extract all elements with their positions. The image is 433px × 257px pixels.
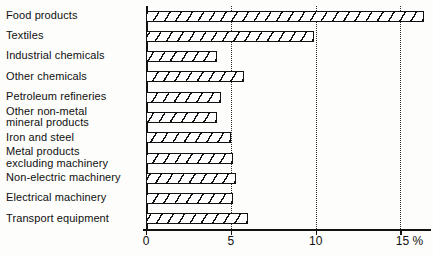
- bar: [146, 71, 244, 82]
- tick-label-15: 15 %: [396, 234, 423, 248]
- category-label: Other chemicals: [6, 71, 142, 83]
- category-label: Petroleum refineries: [6, 91, 142, 103]
- category-label: Non-electric machinery: [6, 172, 142, 184]
- bar-chart: Food productsTextilesIndustrial chemical…: [0, 0, 433, 257]
- bar: [146, 31, 314, 42]
- bar: [146, 193, 233, 204]
- tick-label-5: 5: [227, 234, 234, 248]
- bar: [146, 92, 221, 103]
- plot-area: [146, 6, 431, 229]
- category-label: Transport equipment: [6, 213, 142, 225]
- category-label: Iron and steel: [6, 132, 142, 144]
- bar: [146, 213, 248, 224]
- category-label: Metal products excluding machinery: [6, 146, 142, 169]
- bar: [146, 112, 217, 123]
- category-label: Other non-metal mineral products: [6, 106, 142, 129]
- category-label-column: Food productsTextilesIndustrial chemical…: [0, 0, 146, 228]
- tick-label-0: 0: [143, 234, 150, 248]
- bar: [146, 153, 233, 164]
- category-label: Electrical machinery: [6, 192, 142, 204]
- gridline-15: [400, 6, 402, 229]
- bar: [146, 173, 236, 184]
- category-label: Food products: [6, 10, 142, 22]
- category-label: Industrial chemicals: [6, 50, 142, 62]
- tick-label-10: 10: [309, 234, 322, 248]
- bar: [146, 51, 217, 62]
- x-axis-line: [143, 229, 431, 231]
- category-label: Textiles: [6, 30, 142, 42]
- gridline-10: [316, 6, 318, 229]
- bar: [146, 132, 231, 143]
- bar: [146, 11, 424, 22]
